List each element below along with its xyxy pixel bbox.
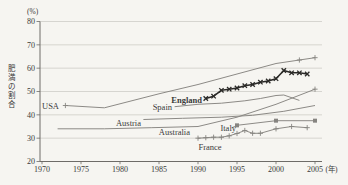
y-axis-title: 肥満の割合 xyxy=(8,64,16,109)
y-tick-label-60: 60 xyxy=(27,64,35,73)
y-tick-label-30: 30 xyxy=(27,134,35,143)
series-label-austria: Austria xyxy=(116,118,141,128)
y-axis-unit-label: (%) xyxy=(27,7,39,16)
x-tick-label-1995: 1995 xyxy=(229,165,245,174)
series-label-usa: USA xyxy=(42,101,60,111)
y-tick-label-40: 40 xyxy=(27,111,35,120)
x-tick-label-1980: 1980 xyxy=(112,165,128,174)
x-tick-label-1985: 1985 xyxy=(151,165,167,174)
x-tick-label-1970: 1970 xyxy=(34,165,50,174)
series-label-italy: Italy xyxy=(220,123,236,133)
x-tick-label-2005: 2005 xyxy=(307,165,323,174)
y-tick-label-80: 80 xyxy=(27,17,35,26)
series-marker-italy-2005 xyxy=(313,119,317,123)
y-tick-label-70: 70 xyxy=(27,41,35,50)
series-label-australia: Australia xyxy=(159,127,190,137)
obesity-line-chart: 2030405060708019701975198019851990199520… xyxy=(0,0,348,185)
x-axis-unit-label: (年) xyxy=(326,164,338,174)
series-label-england: England xyxy=(171,95,202,105)
x-tick-label-1990: 1990 xyxy=(190,165,206,174)
y-tick-label-50: 50 xyxy=(27,87,35,96)
series-label-france: France xyxy=(198,142,221,152)
series-label-spain: Spain xyxy=(153,102,173,112)
chart-figure: 2030405060708019701975198019851990199520… xyxy=(0,0,348,185)
series-line-england xyxy=(206,71,307,99)
x-tick-label-1975: 1975 xyxy=(73,165,89,174)
x-tick-label-2000: 2000 xyxy=(268,165,284,174)
series-marker-italy-2000 xyxy=(274,119,278,123)
